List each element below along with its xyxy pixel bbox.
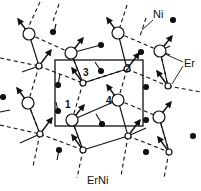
site-label-1: 1 — [65, 100, 71, 110]
ni-atom — [99, 43, 104, 48]
ni-atom — [144, 150, 149, 155]
erni-structure-diagram: Ni Er 1 2 3 4 ErNi — [0, 0, 201, 191]
ni-atom — [1, 95, 6, 100]
er-atom — [112, 94, 124, 106]
er-atom — [153, 111, 165, 123]
er-atom — [125, 133, 131, 139]
er-atom — [166, 149, 172, 155]
ni-atom — [171, 18, 176, 23]
er-atom — [80, 80, 86, 86]
er-atom — [165, 83, 171, 89]
site-label-2: 2 — [125, 64, 131, 74]
er-atom — [66, 114, 78, 126]
ni-label: Ni — [153, 9, 163, 20]
ni-atom — [191, 134, 196, 139]
ni-atom — [144, 118, 149, 123]
er-label: Er — [184, 58, 195, 69]
site-label-4: 4 — [106, 96, 112, 106]
site-label-3: 3 — [83, 68, 89, 78]
er-atom — [22, 97, 34, 109]
ni-atom — [144, 85, 149, 90]
er-atom — [80, 147, 86, 153]
er-atom — [112, 27, 124, 39]
diagram-title: ErNi — [87, 175, 108, 186]
ni-atom — [139, 50, 144, 55]
structure-svg — [0, 0, 201, 191]
er-atom — [23, 28, 35, 40]
er-atom — [154, 45, 166, 57]
er-atom — [36, 63, 42, 69]
solid-bonds — [0, 33, 170, 152]
er-atom — [37, 131, 43, 137]
er-atom — [65, 47, 77, 59]
